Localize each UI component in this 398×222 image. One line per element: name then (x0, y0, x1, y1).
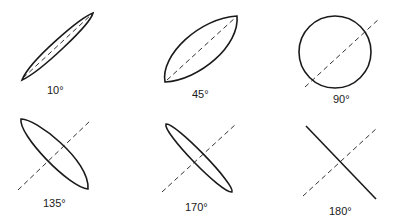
phase-difference-lissajous-figure: 10° 45° 90° 135° 170° (0, 0, 398, 222)
panel-170-degrees: 170° (162, 124, 236, 213)
panel-label: 90° (333, 93, 350, 105)
ellipse-trace (21, 119, 88, 189)
reference-axis-dashed (18, 120, 91, 190)
panel-label: 180° (329, 205, 352, 217)
narrow-ellipse-trace (166, 124, 232, 192)
panel-10-degrees: 10° (22, 13, 93, 96)
panel-label: 135° (43, 197, 66, 209)
panel-label: 10° (47, 84, 64, 96)
panel-90-degrees: 90° (299, 16, 380, 105)
line-trace (306, 126, 376, 199)
panel-180-degrees: 180° (303, 126, 377, 217)
reference-axis-dashed (162, 124, 236, 192)
panel-label: 170° (185, 201, 208, 213)
reference-axis-dashed (23, 14, 92, 78)
panel-label: 45° (192, 88, 209, 100)
panel-45-degrees: 45° (165, 16, 238, 100)
panel-135-degrees: 135° (18, 119, 91, 209)
circle-trace (299, 16, 371, 88)
reference-axis-dashed (305, 18, 380, 87)
